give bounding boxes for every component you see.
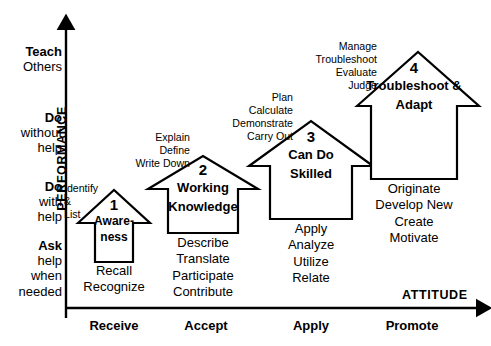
stage-3-name: Can Do Skilled	[288, 147, 334, 181]
stage-4-name: Troubleshoot & Adapt	[366, 78, 461, 112]
stage-1-name: Aware- ness	[94, 214, 134, 244]
stage-2-number: 2	[158, 161, 248, 178]
x-axis-title: ATTITUDE	[402, 288, 468, 303]
stage-3-house-label: 3 Can Do Skilled	[270, 128, 352, 182]
y-level-teach-rest: Others	[23, 59, 62, 74]
stage-1-house-label: 1 Aware- ness	[82, 196, 146, 245]
y-level-do-with-rest: with help	[37, 194, 62, 224]
stage-1-verbs-below: Recall Recognize	[64, 263, 164, 296]
y-level-ask-bold: Ask	[38, 238, 62, 253]
y-level-do-with-bold: Do	[45, 179, 62, 194]
y-level-do-without-rest: without help	[21, 125, 62, 155]
stage-3-verbs-below: Apply Analyze Utilize Relate	[261, 221, 361, 287]
stage-4-number: 4	[364, 59, 464, 76]
y-level-do-without-bold: Do	[45, 110, 62, 125]
y-level-ask: Askhelp when needed	[0, 238, 62, 299]
x-level-accept: Accept	[146, 318, 266, 333]
x-level-promote: Promote	[352, 318, 472, 333]
stage-3-number: 3	[270, 128, 352, 145]
y-level-teach-bold: Teach	[25, 44, 62, 59]
y-level-do-with: Dowith help	[0, 179, 62, 225]
stage-2-name: Working Knowledge	[168, 180, 237, 214]
stage-2-house-label: 2 Working Knowledge	[158, 161, 248, 215]
stage-4-house-label: 4 Troubleshoot & Adapt	[364, 59, 464, 113]
y-level-teach: TeachOthers	[0, 44, 62, 74]
stage-2-verbs-below: Describe Translate Participate Contribut…	[153, 235, 253, 301]
diagram-canvas: PERFORMANCE ATTITUDE TeachOthers Dowitho…	[0, 0, 491, 346]
y-level-ask-rest: help when needed	[19, 253, 62, 298]
y-level-do-without: Dowithout help	[0, 110, 62, 156]
stage-1-number: 1	[82, 196, 146, 213]
stage-4-verbs-below: Originate Develop New Create Motivate	[364, 181, 464, 247]
